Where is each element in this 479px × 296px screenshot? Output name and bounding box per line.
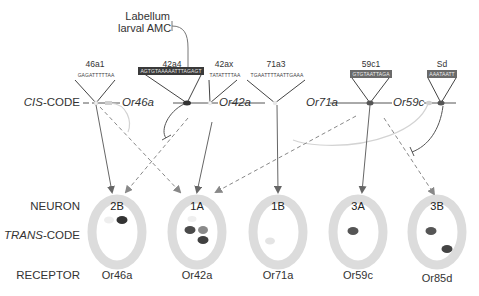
gene-label-or46a: Or46a — [122, 96, 154, 108]
labellum-label-line1: Labellum — [118, 10, 170, 22]
trans-rest: -CODE — [43, 229, 80, 241]
cis-sequence-42ax: TATATTTTAA — [206, 71, 244, 79]
receptor-label-or42a: Or42a — [172, 269, 222, 281]
labellum-input-label: Labellum larval AMC — [118, 10, 170, 34]
neuron-id-1a: 1A — [177, 200, 217, 212]
cis-sequence-71a3: TGAATTTTAATTGAAA — [247, 71, 307, 79]
gene-label-or71a: Or71a — [306, 96, 338, 108]
cis-sequence-42a4: AGTGTAAAAATTTAGAGT — [138, 67, 204, 75]
cis-sequence-46a1: GAGATTTTTAA — [74, 71, 118, 79]
receptor-label-or46a: Or46a — [92, 269, 142, 281]
gene-label-or42a: Or42a — [219, 96, 251, 108]
receptor-label-or59c: Or59c — [333, 269, 383, 281]
cis-element-name-59c1: 59c1 — [341, 59, 401, 69]
cis-element-name-sd: Sd — [412, 59, 472, 69]
trans-italic: TRANS — [4, 229, 43, 241]
cis-italic: CIS — [24, 96, 43, 108]
light-feedback-arcs — [110, 103, 428, 145]
row-label-trans-code: TRANS-CODE — [0, 229, 80, 241]
row-label-receptor: RECEPTOR — [0, 269, 80, 281]
neuron-id-3a: 3A — [338, 200, 378, 212]
cis-sequence-59c1: GTGTAATTAGA — [350, 70, 392, 78]
neuron-id-2b: 2B — [97, 200, 137, 212]
labellum-label-line2: larval AMC — [118, 22, 170, 34]
cis-rest: -CODE — [43, 96, 80, 108]
cis-element-name-71a3: 71a3 — [246, 59, 306, 69]
dashed-arrows — [100, 107, 434, 194]
cis-element-name-46a1: 46a1 — [65, 59, 125, 69]
receptor-label-or71a: Or71a — [253, 269, 303, 281]
diagram-graphics — [0, 0, 479, 296]
neuron-id-1b: 1B — [258, 200, 298, 212]
neuron-id-3b: 3B — [417, 200, 457, 212]
row-label-cis-code: CIS-CODE — [0, 96, 80, 108]
gene-regulation-diagram: Labellum larval AMC 46a1 42a4 42ax 71a3 … — [0, 0, 479, 296]
receptor-label-or85d: Or85d — [412, 272, 462, 284]
row-label-neuron: NEURON — [0, 200, 80, 212]
gene-label-or59c: Or59c — [393, 96, 424, 108]
cis-sequence-sd: AAATAATT — [427, 70, 457, 78]
